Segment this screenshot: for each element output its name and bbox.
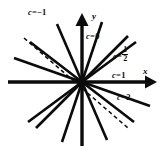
y-axis-label: y: [92, 12, 96, 21]
y-axis-arrowhead: [76, 13, 89, 26]
curve-label-c-2: c=2: [117, 93, 130, 102]
curve-label-equals: =: [117, 51, 122, 61]
curve-label-value: 0: [95, 31, 99, 41]
curve-label-c-0: c=0: [86, 32, 99, 41]
curve-label-c-neg1: c=−1: [28, 8, 46, 17]
curve-label-c-1: c=1: [112, 71, 125, 80]
curve-label-value: −1: [37, 7, 46, 17]
origin-point: [79, 79, 85, 85]
curve-label-value: 1: [121, 70, 125, 80]
curve-label-value: 2: [126, 92, 130, 102]
fraction-denominator: 2: [122, 55, 128, 63]
fraction-one-half: 12: [122, 46, 128, 64]
curve-label-c-half: c=12: [113, 46, 128, 64]
figure-canvas: [0, 0, 163, 152]
line-family-figure: c=−1 c=0 c=12 c=1 c=2 y x: [0, 0, 163, 152]
x-axis-label: x: [143, 67, 148, 76]
x-axis-arrowhead: [145, 76, 157, 89]
